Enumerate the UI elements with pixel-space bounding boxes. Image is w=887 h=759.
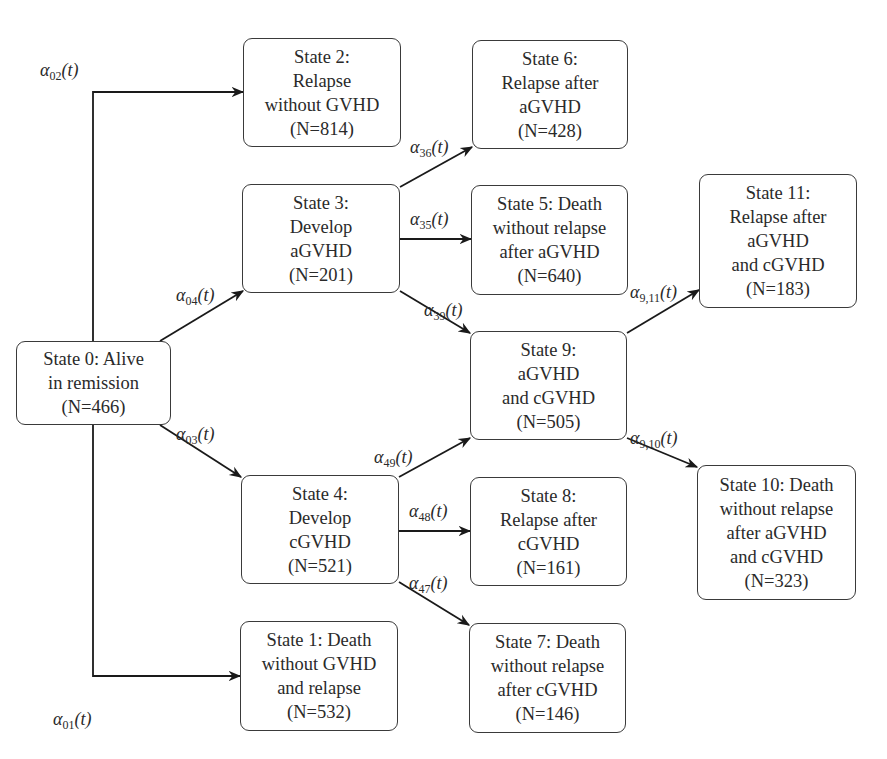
state-text-line: (N=201) xyxy=(289,263,353,287)
state-text-line: in remission xyxy=(48,371,139,395)
state-text-line: without relapse xyxy=(720,497,834,521)
transition-label-49: α49(t) xyxy=(374,447,412,471)
state-text-line: (N=428) xyxy=(518,119,582,143)
state-box-s5: State 5: Deathwithout relapseafter aGVHD… xyxy=(471,185,628,295)
state-text-line: (N=521) xyxy=(288,554,352,578)
transition-label-47: α47(t) xyxy=(409,573,447,597)
state-box-s4: State 4:DevelopcGVHD(N=521) xyxy=(241,475,399,584)
transition-label-36: α36(t) xyxy=(410,137,448,161)
state-text-line: (N=183) xyxy=(746,277,810,301)
state-text-line: State 1: Death xyxy=(267,628,372,652)
transition-label-35: α35(t) xyxy=(410,209,448,233)
state-box-s11: State 11:Relapse afteraGVHDand cGVHD(N=1… xyxy=(699,174,857,308)
state-text-line: without relapse xyxy=(493,216,607,240)
state-text-line: State 8: xyxy=(520,484,576,508)
state-box-s0: State 0: Alivein remission(N=466) xyxy=(16,341,171,425)
state-box-s6: State 6:Relapse afteraGVHD(N=428) xyxy=(472,40,628,149)
state-text-line: State 7: Death xyxy=(495,630,600,654)
state-box-s1: State 1: Deathwithout GVHDand relapse(N=… xyxy=(240,621,398,731)
state-text-line: State 10: Death xyxy=(719,473,833,497)
state-text-line: Develop xyxy=(289,506,352,530)
state-box-s3: State 3:DevelopaGVHD(N=201) xyxy=(242,184,400,293)
state-text-line: Relapse after xyxy=(500,508,597,532)
transition-label-04: α04(t) xyxy=(176,285,214,309)
state-text-line: (N=323) xyxy=(745,569,809,593)
state-text-line: aGVHD xyxy=(519,95,581,119)
state-text-line: cGVHD xyxy=(289,530,351,554)
transition-label-02: α02(t) xyxy=(40,60,78,84)
state-box-s7: State 7: Deathwithout relapseafter cGVHD… xyxy=(469,623,626,733)
state-box-s10: State 10: Deathwithout relapseafter aGVH… xyxy=(697,465,856,600)
state-text-line: Relapse after xyxy=(501,71,598,95)
transition-label-01: α01(t) xyxy=(53,709,91,733)
state-text-line: and cGVHD xyxy=(730,545,823,569)
state-text-line: and cGVHD xyxy=(732,253,825,277)
state-text-line: after aGVHD xyxy=(726,521,826,545)
state-text-line: State 9: xyxy=(520,338,576,362)
state-text-line: (N=161) xyxy=(517,556,581,580)
state-text-line: (N=532) xyxy=(287,700,351,724)
state-text-line: State 5: Death xyxy=(497,192,602,216)
state-text-line: aGVHD xyxy=(518,362,580,386)
transition-label-9-10: α9,10(t) xyxy=(630,428,677,452)
state-box-s9: State 9:aGVHDand cGVHD(N=505) xyxy=(470,331,627,440)
state-text-line: (N=505) xyxy=(517,410,581,434)
state-text-line: without relapse xyxy=(491,654,605,678)
state-text-line: State 6: xyxy=(522,47,578,71)
state-text-line: and relapse xyxy=(277,676,361,700)
state-text-line: Develop xyxy=(290,215,353,239)
state-text-line: (N=640) xyxy=(518,264,582,288)
state-text-line: after aGVHD xyxy=(499,240,599,264)
state-text-line: after cGVHD xyxy=(497,678,597,702)
state-text-line: (N=146) xyxy=(516,702,580,726)
state-text-line: State 3: xyxy=(293,191,349,215)
state-text-line: without GVHD xyxy=(262,652,377,676)
state-text-line: and cGVHD xyxy=(502,386,595,410)
transition-label-48: α48(t) xyxy=(409,501,447,525)
state-box-s2: State 2:Relapsewithout GVHD(N=814) xyxy=(243,38,401,147)
transition-label-39: α39(t) xyxy=(424,300,462,324)
state-text-line: Relapse after xyxy=(729,205,826,229)
state-text-line: State 4: xyxy=(292,482,348,506)
state-text-line: aGVHD xyxy=(290,239,352,263)
state-text-line: without GVHD xyxy=(265,93,380,117)
state-text-line: State 0: Alive xyxy=(43,347,144,371)
state-text-line: (N=814) xyxy=(290,117,354,141)
state-text-line: State 11: xyxy=(746,181,811,205)
transition-label-03: α03(t) xyxy=(176,424,214,448)
state-text-line: State 2: xyxy=(294,45,350,69)
state-text-line: Relapse xyxy=(293,69,352,93)
state-box-s8: State 8:Relapse aftercGVHD(N=161) xyxy=(470,477,627,586)
state-text-line: cGVHD xyxy=(518,532,580,556)
state-text-line: aGVHD xyxy=(747,229,809,253)
transition-label-9-11: α9,11(t) xyxy=(630,282,677,306)
state-text-line: (N=466) xyxy=(62,395,126,419)
